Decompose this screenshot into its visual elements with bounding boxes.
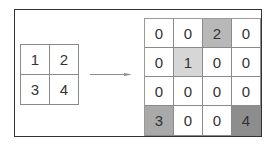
- output-cell: 1: [174, 48, 203, 77]
- input-cell: 1: [21, 45, 50, 75]
- output-cell: 0: [232, 77, 261, 106]
- output-cell: 0: [203, 48, 232, 77]
- output-cell: 0: [203, 106, 232, 136]
- output-cell: 0: [174, 106, 203, 136]
- output-cell: 0: [203, 77, 232, 106]
- output-cell: 0: [145, 48, 174, 77]
- output-grid-4x4: 0 0 2 0 0 1 0 0 0 0 0 0 3 0 0 4: [144, 18, 261, 136]
- input-cell: 2: [50, 45, 79, 75]
- input-cell: 4: [50, 75, 79, 105]
- input-grid-2x2: 1 2 3 4: [20, 44, 79, 105]
- output-cell: 0: [145, 19, 174, 48]
- output-cell: 4: [232, 106, 261, 136]
- output-cell: 3: [145, 106, 174, 136]
- output-cell: 0: [174, 19, 203, 48]
- output-cell: 0: [174, 77, 203, 106]
- output-cell: 0: [232, 19, 261, 48]
- right-arrow-icon: [90, 73, 132, 76]
- output-cell: 0: [145, 77, 174, 106]
- input-cell: 3: [21, 75, 50, 105]
- output-cell: 2: [203, 19, 232, 48]
- output-cell: 0: [232, 48, 261, 77]
